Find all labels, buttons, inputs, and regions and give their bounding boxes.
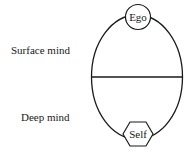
deep-mind-label: Deep mind — [21, 112, 70, 123]
surface-mind-label: Surface mind — [11, 45, 70, 56]
self-label: Self — [129, 128, 147, 140]
ego-label: Ego — [129, 11, 147, 23]
ego-node: Ego — [126, 5, 151, 30]
mind-diagram: Ego Self Surface mind Deep mind — [0, 0, 190, 155]
self-node: Self — [123, 122, 153, 146]
diagram-canvas: Ego Self — [0, 0, 190, 155]
